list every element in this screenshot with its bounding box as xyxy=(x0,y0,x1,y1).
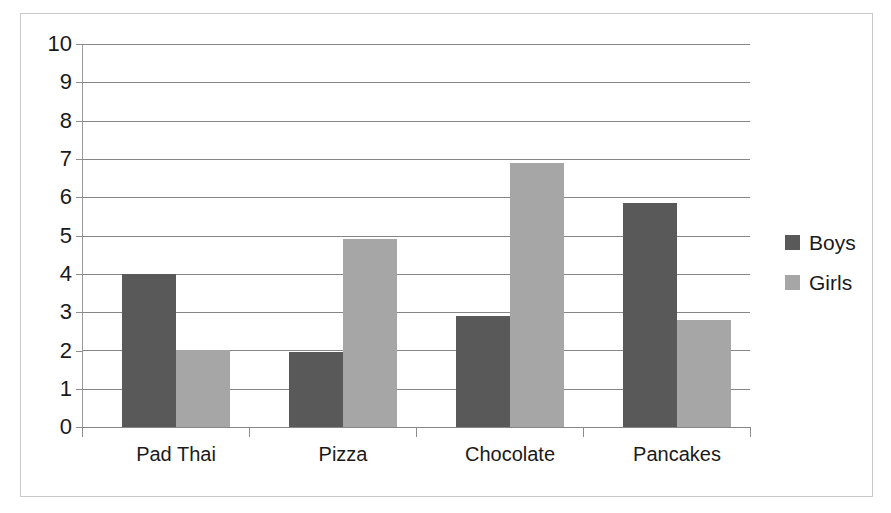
y-tick-label: 5 xyxy=(60,225,72,247)
y-tick-label: 0 xyxy=(60,416,72,438)
x-tick-mark xyxy=(750,428,751,437)
y-tick-label: 6 xyxy=(60,186,72,208)
y-tick-label: 7 xyxy=(60,148,72,170)
bar-boys-chocolate[interactable] xyxy=(456,316,510,427)
x-tick-mark xyxy=(249,428,250,437)
y-axis-tick-labels: 10 9 8 7 6 5 4 3 2 1 0 xyxy=(20,0,72,513)
legend-label-girls: Girls xyxy=(809,272,852,293)
x-tick-mark xyxy=(416,428,417,437)
bar-boys-pizza[interactable] xyxy=(289,352,343,427)
legend-entry-boys[interactable]: Boys xyxy=(785,222,875,262)
bar-boys-pad-thai[interactable] xyxy=(122,274,176,427)
x-tick-label-chocolate: Chocolate xyxy=(465,443,555,466)
x-tick-mark xyxy=(583,428,584,437)
y-tick-label: 8 xyxy=(60,110,72,132)
bar-boys-pancakes[interactable] xyxy=(623,203,677,427)
legend-swatch-icon-boys xyxy=(785,235,800,250)
legend-swatch-icon-girls xyxy=(785,275,800,290)
bar-girls-pad-thai[interactable] xyxy=(176,350,230,427)
legend: Boys Girls xyxy=(785,222,875,302)
x-tick-label-pad-thai: Pad Thai xyxy=(136,443,216,466)
x-tick-mark xyxy=(82,428,83,437)
y-tick-label: 3 xyxy=(60,301,72,323)
bar-girls-pancakes[interactable] xyxy=(677,320,731,427)
x-tick-label-pizza: Pizza xyxy=(319,443,368,466)
bar-girls-pizza[interactable] xyxy=(343,239,397,427)
x-axis-tick-labels: Pad Thai Pizza Chocolate Pancakes xyxy=(82,443,751,483)
y-tick-label: 4 xyxy=(60,263,72,285)
y-tick-label: 1 xyxy=(60,378,72,400)
y-tick-label: 9 xyxy=(60,71,72,93)
bar-chart: 10 9 8 7 6 5 4 3 2 1 0 Pad Thai Pizza Ch… xyxy=(0,0,891,513)
bar-girls-chocolate[interactable] xyxy=(510,163,564,427)
y-tick-label: 2 xyxy=(60,340,72,362)
legend-entry-girls[interactable]: Girls xyxy=(785,262,875,302)
y-tick-label: 10 xyxy=(48,33,72,55)
bars-layer xyxy=(82,44,751,428)
x-tick-label-pancakes: Pancakes xyxy=(633,443,721,466)
legend-label-boys: Boys xyxy=(809,232,856,253)
